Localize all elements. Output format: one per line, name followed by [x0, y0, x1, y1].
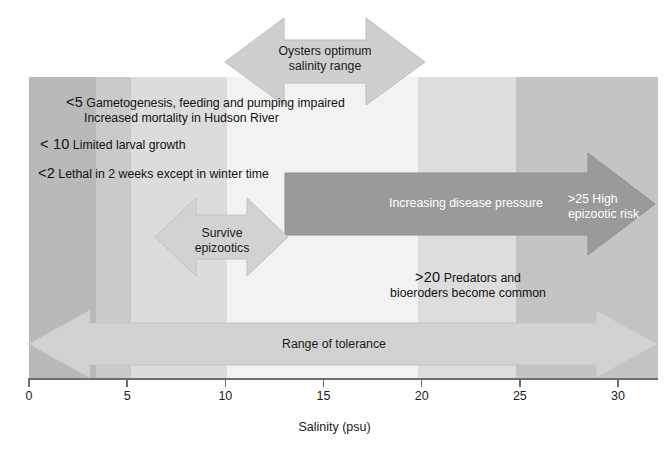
survive-epizootics-label: Survive epizootics: [195, 226, 250, 255]
axis-tick-label-5: 5: [124, 389, 131, 403]
range-of-tolerance-label: Range of tolerance: [282, 337, 386, 352]
annotation-predators-line1: >20 Predators and: [390, 270, 546, 286]
annotation-gametogenesis-text1: Gametogenesis, feeding and pumping impai…: [86, 96, 344, 110]
axis-tick-5: [126, 378, 128, 387]
optimum-range-label-line1: Oysters optimum: [279, 44, 372, 59]
axis-title: Salinity (psu): [0, 420, 669, 434]
survive-epizootics-label-line2: epizootics: [195, 241, 250, 256]
high-epizootic-risk-label: >25 High epizootic risk: [568, 192, 639, 222]
threshold-lt2: <2: [38, 165, 55, 181]
annotation-gametogenesis: <5 Gametogenesis, feeding and pumping im…: [66, 95, 345, 126]
threshold-lt5: <5: [66, 94, 83, 110]
annotation-lethal-text: Lethal in 2 weeks except in winter time: [58, 167, 269, 181]
annotation-gametogenesis-line1: <5 Gametogenesis, feeding and pumping im…: [66, 95, 345, 111]
optimum-range-label: Oysters optimum salinity range: [279, 44, 372, 73]
threshold-gt20: >20: [415, 269, 440, 285]
axis-tick-0: [28, 378, 30, 387]
axis-tick-30: [617, 378, 619, 387]
annotation-predators-text1: Predators and: [444, 271, 521, 285]
annotation-predators-text2: bioeroders become common: [390, 286, 546, 301]
annotation-predators: >20 Predators and bioeroders become comm…: [390, 270, 546, 301]
annotation-lethal: <2 Lethal in 2 weeks except in winter ti…: [38, 166, 269, 182]
threshold-lt10: < 10: [40, 136, 69, 152]
optimum-range-label-line2: salinity range: [279, 59, 372, 74]
high-epizootic-risk-line2: epizootic risk: [568, 207, 639, 222]
axis-tick-20: [421, 378, 423, 387]
axis-tick-label-20: 20: [415, 389, 429, 403]
high-epizootic-risk-line1: >25 High: [568, 192, 639, 207]
annotation-larval-growth-text: Limited larval growth: [73, 138, 186, 152]
increasing-disease-pressure-label: Increasing disease pressure: [389, 196, 543, 211]
axis-tick-10: [225, 378, 227, 387]
axis-tick-label-30: 30: [611, 389, 625, 403]
salinity-tolerance-diagram: Oysters optimum salinity range Survive e…: [0, 0, 669, 450]
axis-tick-25: [519, 378, 521, 387]
salinity-axis-line: [29, 378, 658, 380]
annotation-larval-growth: < 10 Limited larval growth: [40, 137, 186, 153]
axis-tick-label-25: 25: [513, 389, 527, 403]
axis-tick-label-0: 0: [26, 389, 33, 403]
axis-tick-label-15: 15: [317, 389, 331, 403]
axis-tick-label-10: 10: [218, 389, 232, 403]
axis-tick-15: [323, 378, 325, 387]
annotation-gametogenesis-text2: Increased mortality in Hudson River: [66, 111, 345, 126]
survive-epizootics-label-line1: Survive: [195, 226, 250, 241]
